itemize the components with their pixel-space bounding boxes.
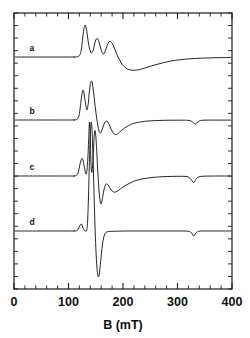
x-tick-label: 0 [11,295,18,309]
spectrum-trace-c [14,122,232,204]
spectrum-trace-d [14,122,232,277]
x-tick-label: 100 [58,295,79,309]
trace-label-c: c [30,162,35,172]
trace-label-a: a [30,43,35,53]
x-axis-label: B (mT) [103,318,143,332]
x-tick-label: 400 [222,295,243,309]
spectra-plot: 0100200300400B (mT)abcd [0,0,250,338]
epr-spectra-figure: 0100200300400B (mT)abcd [0,0,250,338]
x-tick-label: 300 [167,295,188,309]
spectra-group [14,25,232,277]
x-tick-label: 200 [113,295,134,309]
spectrum-trace-a [14,25,232,70]
plot-frame [14,13,232,289]
trace-label-b: b [29,106,34,116]
spectrum-trace-b [14,81,232,135]
trace-label-d: d [29,217,34,227]
